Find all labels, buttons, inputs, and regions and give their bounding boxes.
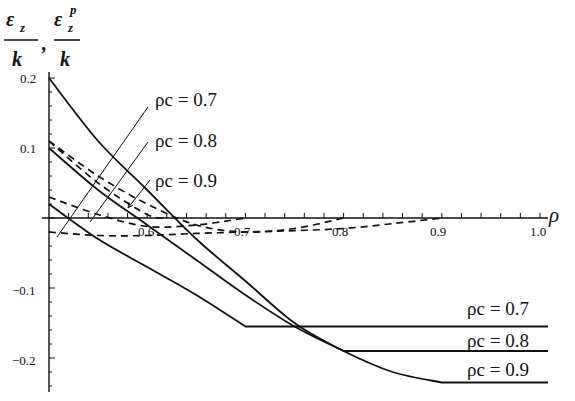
annotation-rc08-upper: ρc = 0.8 — [155, 130, 217, 151]
annotations-upper: ρc = 0.7 ρc = 0.8 ρc = 0.9 — [57, 89, 217, 237]
x-ticks — [69, 213, 540, 218]
ylabel-eps1: ε — [6, 8, 15, 30]
total-strain-curve — [49, 148, 548, 351]
y-tick-label: −0.2 — [12, 353, 36, 368]
ylabel-k1: k — [12, 48, 22, 70]
x-tick-label: 1.0 — [530, 224, 546, 239]
chart: ε z k , ε z p k 0.2 0.1 −0.1 −0.2 0.6 0.… — [0, 0, 575, 401]
annotation-rc07-upper: ρc = 0.7 — [155, 89, 217, 110]
y-tick-label: −0.1 — [12, 283, 36, 298]
y-tick-label: 0.2 — [20, 71, 36, 86]
y-tick-label: 0.1 — [20, 141, 36, 156]
ylabel-k2: k — [60, 48, 70, 70]
ylabel-sup2: p — [69, 2, 77, 17]
annotation-rc07-lower: ρc = 0.7 — [467, 298, 529, 319]
x-axis-label: ρ — [548, 203, 559, 227]
annotations-lower: ρc = 0.7 ρc = 0.8 ρc = 0.9 — [467, 298, 529, 380]
ylabel-sub2: z — [67, 20, 74, 35]
ylabel-sub1: z — [19, 20, 26, 35]
ylabel-comma: , — [41, 32, 47, 54]
x-tick-label: 0.8 — [332, 224, 348, 239]
annotation-rc09-lower: ρc = 0.9 — [467, 359, 529, 380]
x-tick-label: 0.9 — [430, 224, 446, 239]
plastic-strain-curve — [49, 197, 245, 227]
annotation-rc08-lower: ρc = 0.8 — [467, 330, 529, 351]
ylabel-eps2: ε — [54, 8, 63, 30]
y-axis-label: ε z k , ε z p k — [4, 2, 80, 70]
annotation-rc09-upper: ρc = 0.9 — [155, 170, 217, 191]
